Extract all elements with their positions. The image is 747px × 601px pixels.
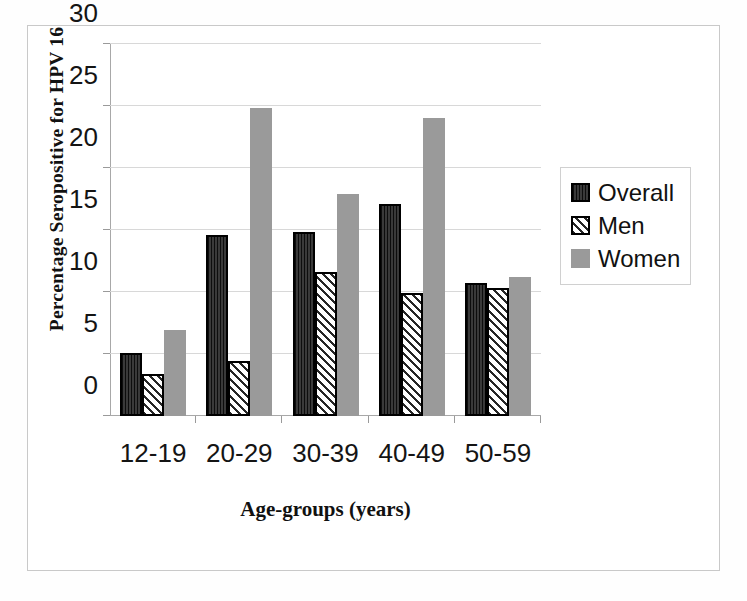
y-axis-tick: [103, 353, 110, 354]
bar-overall-50-59: [465, 283, 487, 416]
y-axis-tick-label: 10: [69, 246, 98, 277]
x-axis-tick: [281, 416, 282, 423]
plot-inner: 051015202530 12-1920-2930-3940-4950-59: [110, 44, 541, 416]
y-axis-tick: [103, 43, 110, 44]
bar-group: 50-59: [455, 44, 541, 416]
y-axis-tick: [103, 167, 110, 168]
bar-group: 20-29: [196, 44, 282, 416]
bar-group-bars: [110, 44, 196, 416]
x-axis-tick: [540, 416, 541, 423]
bar-men-30-39: [315, 272, 337, 416]
y-axis-tick-label: 15: [69, 184, 98, 215]
y-axis-tick: [103, 229, 110, 230]
chart-legend: OverallMenWomen: [560, 167, 691, 285]
x-axis-tick: [454, 416, 455, 423]
legend-item-women[interactable]: Women: [571, 242, 682, 275]
y-axis-tick: [103, 415, 110, 416]
chart-figure: Percentage Seropositive for HPV 16 05101…: [0, 0, 747, 601]
bar-women-30-39: [337, 194, 359, 416]
legend-item-men[interactable]: Men: [571, 209, 682, 242]
bar-men-20-29: [228, 361, 250, 416]
bar-overall-20-29: [206, 235, 228, 416]
y-axis-tick-label: 5: [84, 308, 98, 339]
legend-item-label: Men: [598, 214, 645, 238]
y-axis-tick-label: 20: [69, 122, 98, 153]
x-axis-tick-label: 12-19: [120, 438, 187, 469]
bar-groups: 12-1920-2930-3940-4950-59: [110, 44, 541, 416]
legend-item-label: Overall: [598, 181, 674, 205]
bar-group: 40-49: [369, 44, 455, 416]
legend-swatch-icon: [571, 216, 590, 235]
x-axis-tick: [368, 416, 369, 423]
bar-overall-30-39: [293, 232, 315, 416]
x-axis-tick: [195, 416, 196, 423]
plot-area: 051015202530 12-1920-2930-3940-4950-59: [110, 44, 541, 416]
legend-item-label: Women: [598, 247, 680, 271]
bar-group: 12-19: [110, 44, 196, 416]
bar-group-bars: [196, 44, 282, 416]
bar-group-bars: [282, 44, 368, 416]
x-axis-tick-label: 30-39: [292, 438, 359, 469]
x-axis-title: Age-groups (years): [110, 497, 541, 522]
y-axis-title: Percentage Seropositive for HPV 16: [46, 14, 68, 344]
legend-swatch-icon: [571, 249, 590, 268]
x-axis-tick-label: 40-49: [378, 438, 445, 469]
bar-women-40-49: [423, 118, 445, 416]
y-axis-tick: [103, 105, 110, 106]
bar-men-12-19: [142, 374, 164, 416]
y-axis-tick: [103, 291, 110, 292]
bar-overall-40-49: [379, 204, 401, 416]
bar-men-50-59: [487, 288, 509, 416]
x-axis-tick-label: 20-29: [206, 438, 273, 469]
bar-group-bars: [455, 44, 541, 416]
legend-item-overall[interactable]: Overall: [571, 176, 682, 209]
bar-women-50-59: [509, 277, 531, 416]
bar-group-bars: [369, 44, 455, 416]
bar-overall-12-19: [120, 353, 142, 416]
bar-women-20-29: [250, 108, 272, 416]
y-axis-tick-label: 25: [69, 60, 98, 91]
bar-women-12-19: [164, 330, 186, 416]
y-axis-tick-label: 0: [84, 370, 98, 401]
y-axis-tick-label: 30: [69, 0, 98, 29]
bar-men-40-49: [401, 293, 423, 416]
legend-swatch-icon: [571, 183, 590, 202]
x-axis-tick-label: 50-59: [465, 438, 532, 469]
bar-group: 30-39: [282, 44, 368, 416]
